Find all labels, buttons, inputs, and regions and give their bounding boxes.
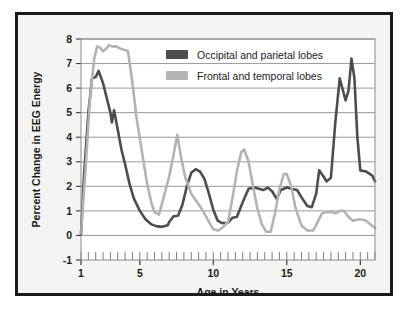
x-tick-label: 5: [137, 267, 143, 279]
x-tick-label: 1: [78, 267, 84, 279]
y-tick-label: 1: [66, 205, 72, 217]
legend-label-0: Occipital and parietal lobes: [197, 49, 323, 61]
y-tick-label: -1: [63, 254, 72, 266]
x-tick-label: 20: [354, 267, 366, 279]
legend-swatch-0: [166, 50, 188, 59]
y-tick-label: 3: [66, 155, 72, 167]
y-tick-label: 4: [66, 131, 72, 143]
y-axis-title: Percent Change in EEG Energy: [30, 71, 42, 227]
x-tick-label: 15: [281, 267, 293, 279]
y-tick-label: 5: [66, 106, 72, 118]
x-axis-title: Age in Years: [197, 286, 260, 293]
chart-figure: -1012345678 15101520 Age in Years Percen…: [15, 12, 393, 296]
y-tick-label: 6: [66, 82, 72, 94]
y-tick-label: 7: [66, 57, 72, 69]
eeg-line-chart: -1012345678 15101520 Age in Years Percen…: [18, 15, 390, 293]
legend-label-1: Frontal and temporal lobes: [197, 70, 322, 82]
minor-x-ticks: [81, 252, 375, 260]
y-tick-label: 8: [66, 33, 72, 45]
x-tick-label: 10: [207, 267, 219, 279]
legend-swatch-1: [166, 71, 188, 80]
y-tick-label: 0: [66, 229, 72, 241]
y-tick-label: 2: [66, 180, 72, 192]
